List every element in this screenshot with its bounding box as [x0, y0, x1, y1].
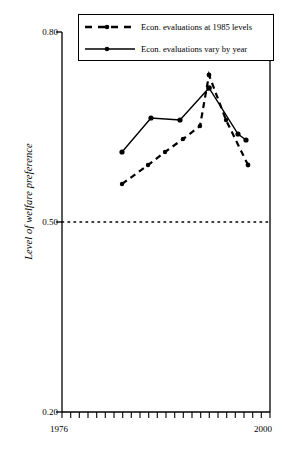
- chart-figure: Level of welfare preference 0.80 0.50 0.…: [0, 0, 293, 452]
- chart-canvas: [0, 0, 293, 452]
- series-markers-1985-levels: [120, 73, 251, 187]
- legend-label-vary-by-year: Econ. evaluations vary by year: [141, 44, 247, 54]
- legend-item-1985-levels: Econ. evaluations at 1985 levels: [79, 16, 273, 38]
- legend-label-1985-levels: Econ. evaluations at 1985 levels: [141, 22, 252, 32]
- chart-legend: Econ. evaluations at 1985 levels Econ. e…: [78, 14, 274, 61]
- legend-swatch-solid: [79, 42, 141, 56]
- legend-swatch-dashed: [79, 20, 141, 34]
- legend-item-vary-by-year: Econ. evaluations vary by year: [79, 38, 273, 60]
- x-tick-marks: [62, 412, 270, 418]
